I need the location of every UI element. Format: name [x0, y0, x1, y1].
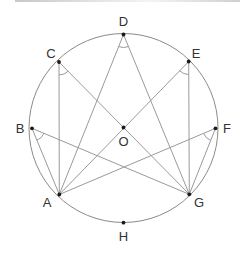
label-b: B: [16, 121, 25, 136]
angle-mark-adg: [119, 47, 129, 48]
point-b: [30, 126, 34, 130]
point-d: [122, 33, 126, 37]
label-o: O: [118, 134, 128, 149]
segment-eg: [189, 62, 190, 195]
label-g: G: [194, 195, 204, 210]
point-a: [57, 193, 61, 197]
angle-mark-abg: [37, 133, 44, 140]
label-d: D: [119, 14, 128, 29]
point-f: [214, 126, 218, 130]
point-g: [187, 192, 191, 196]
angle-mark-aeg: [180, 71, 189, 75]
label-h: H: [119, 229, 128, 244]
label-a: A: [43, 195, 52, 210]
point-h: [122, 221, 126, 225]
label-c: C: [46, 46, 55, 61]
point-c: [57, 60, 61, 64]
point-e: [187, 60, 191, 64]
angle-mark-acg: [59, 71, 68, 75]
label-f: F: [223, 121, 231, 136]
segment-fa: [59, 128, 215, 194]
angle-mark-afg: [204, 133, 211, 140]
circle-diagram: ABCDEFGHO: [0, 0, 240, 255]
point-o: [122, 126, 126, 130]
segment-da: [59, 35, 123, 195]
label-e: E: [192, 46, 201, 61]
